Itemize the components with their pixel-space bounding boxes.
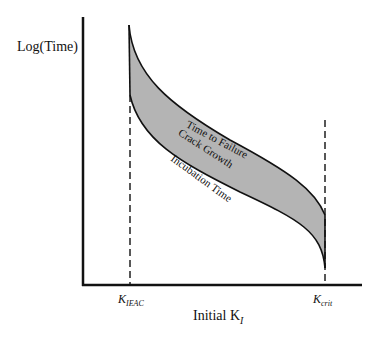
k-crit-tick-label: Kcrit — [313, 292, 332, 308]
x-axis-label: Initial KI — [193, 308, 243, 326]
y-axis-label: Log(Time) — [17, 39, 78, 55]
k-ieac-tick-label: KIEAC — [118, 292, 144, 308]
